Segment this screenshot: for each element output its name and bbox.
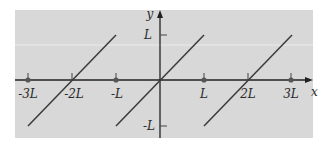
x-tick-label: -2L — [64, 87, 84, 101]
x-tick-label: -L — [111, 87, 123, 101]
x-tick-label: 2L — [239, 87, 256, 101]
y-tick-label: L — [143, 28, 152, 42]
x-axis-label: x — [311, 85, 318, 99]
x-tick-label: 3L — [283, 87, 299, 101]
x-tick-label: -3L — [18, 87, 38, 101]
y-tick-label: -L — [143, 119, 155, 133]
x-tick-label: L — [199, 87, 208, 101]
sawtooth-chart: -3L -2L -L L 2L 3L L -L x y — [0, 0, 330, 149]
plot-panel — [15, 10, 313, 138]
y-axis-label: y — [146, 7, 154, 21]
